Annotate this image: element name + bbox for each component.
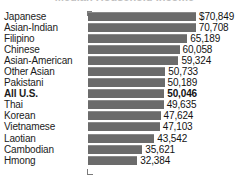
bar-track: $70,849	[88, 12, 246, 21]
bar	[88, 67, 165, 76]
bar-track: 47,624	[88, 111, 246, 120]
bar-row: Asian-Indian70,708	[0, 22, 249, 33]
bar-track: 60,058	[88, 45, 246, 54]
bar	[88, 145, 142, 154]
bar-row: Japanese$70,849	[0, 11, 249, 22]
bar-row: Filipino65,189	[0, 33, 249, 44]
axis-tick-bottom-horizontal	[87, 174, 93, 175]
bar-row: Laotian43,542	[0, 133, 249, 144]
bar-track: 59,324	[88, 56, 246, 65]
bar-row: All U.S.50,046	[0, 88, 249, 99]
bar-row-list: Japanese$70,849Asian-Indian70,708Filipin…	[0, 11, 249, 166]
bar	[88, 111, 161, 120]
category-label: Korean	[4, 110, 35, 121]
category-label: Hmong	[4, 155, 36, 166]
category-label: All U.S.	[4, 88, 38, 99]
bar-track: 50,046	[88, 89, 246, 98]
chart-title-strip: Median Household Income	[0, 0, 249, 11]
bar	[88, 56, 178, 65]
bar-row: Chinese60,058	[0, 44, 249, 55]
bar-track: 50,733	[88, 67, 246, 76]
bar	[88, 34, 187, 43]
chart-title: Median Household Income	[0, 0, 249, 3]
category-label: Asian-American	[4, 55, 72, 66]
bar-track: 32,384	[88, 156, 246, 165]
bar-row: Thai49,635	[0, 99, 249, 110]
bar-row: Pakistani50,189	[0, 77, 249, 88]
category-label: Japanese	[4, 11, 46, 22]
category-label: Other Asian	[4, 66, 55, 77]
bar	[88, 23, 196, 32]
bar	[88, 78, 165, 87]
bar	[88, 122, 160, 131]
bar-row: Cambodian35,621	[0, 144, 249, 155]
bar-chart: Japanese$70,849Asian-Indian70,708Filipin…	[0, 11, 249, 178]
value-label: 32,384	[140, 156, 170, 167]
bar-track: 35,621	[88, 145, 246, 154]
category-label: Filipino	[4, 33, 34, 44]
bar-track: 50,189	[88, 78, 246, 87]
bar-track: 47,103	[88, 122, 246, 131]
category-label: Thai	[4, 99, 23, 110]
category-label: Cambodian	[4, 144, 54, 155]
bar	[88, 89, 164, 98]
category-label: Asian-Indian	[4, 22, 58, 33]
bar-row: Vietnamese47,103	[0, 121, 249, 132]
bar-track: 43,542	[88, 134, 246, 143]
bar	[88, 100, 164, 109]
bar-row: Hmong32,384	[0, 155, 249, 166]
bar-track: 49,635	[88, 100, 246, 109]
category-label: Pakistani	[4, 77, 43, 88]
bar-track: 65,189	[88, 34, 246, 43]
bar	[88, 12, 196, 21]
bar-row: Korean47,624	[0, 110, 249, 121]
bar	[88, 156, 137, 165]
bar-row: Asian-American59,324	[0, 55, 249, 66]
bar	[88, 134, 154, 143]
category-label: Vietnamese	[4, 121, 55, 132]
bar-track: 70,708	[88, 23, 246, 32]
category-label: Chinese	[4, 44, 40, 55]
category-label: Laotian	[4, 133, 36, 144]
bar	[88, 45, 180, 54]
bar-row: Other Asian50,733	[0, 66, 249, 77]
